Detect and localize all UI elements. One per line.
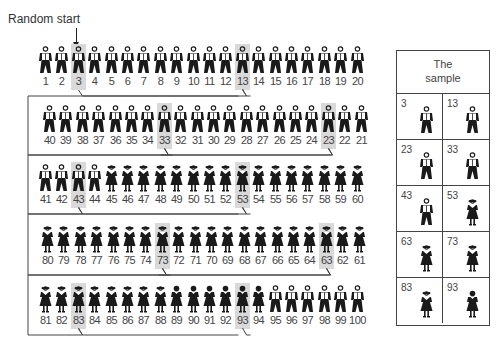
man-figure-icon [465,106,480,134]
sample-cell: 33 [443,140,489,186]
sample-cell: 13 [443,94,489,140]
sample-cell: 3 [397,94,443,140]
sample-cell: 63 [397,232,443,278]
sample-number: 93 [447,282,458,293]
sample-number: 43 [401,190,412,201]
sample-cell: 43 [397,186,443,232]
woman-figure-icon [419,244,434,272]
sample-cell: 93 [443,278,489,323]
sample-number: 23 [401,144,412,155]
sample-cell: 83 [397,278,443,323]
sample-number: 13 [447,98,458,109]
sample-title-line2: sample [397,71,489,85]
sample-box: The sample 3 13 23 33 43 53 63 73 83 93 [396,50,490,326]
sample-box-title: The sample [397,51,489,94]
woman-figure-icon [465,244,480,272]
woman-dark-figure-icon [465,290,480,318]
man-figure-icon [465,152,480,180]
man-figure-icon [419,152,434,180]
sample-number: 73 [447,236,458,247]
sample-grid: 3 13 23 33 43 53 63 73 83 93 [397,94,489,323]
man-figure-icon [419,198,434,226]
sample-number: 53 [447,190,458,201]
woman-figure-icon [419,290,434,318]
woman-figure-icon [465,198,480,226]
sample-cell: 73 [443,232,489,278]
sample-number: 83 [401,282,412,293]
man-figure-icon [419,106,434,134]
sample-cell: 23 [397,140,443,186]
sample-number: 3 [401,98,407,109]
sample-number: 63 [401,236,412,247]
sample-number: 33 [447,144,458,155]
sample-cell: 53 [443,186,489,232]
sample-title-line1: The [397,57,489,71]
